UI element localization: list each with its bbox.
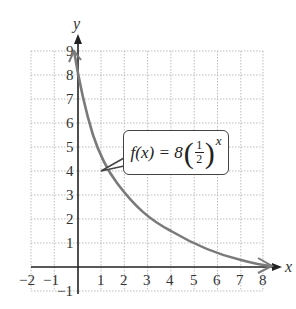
svg-text:7: 7 — [66, 91, 74, 107]
svg-text:6: 6 — [66, 115, 74, 131]
x-axis-label: x — [284, 258, 292, 275]
svg-text:3: 3 — [66, 187, 74, 203]
svg-text:2: 2 — [120, 272, 128, 288]
svg-text:2: 2 — [66, 211, 74, 227]
svg-text:5: 5 — [190, 272, 198, 288]
function-callout: f(x) = 8 ( 1 2 ) x — [123, 130, 229, 175]
y-tick-labels: −1 1 2 3 4 5 6 7 8 9 — [57, 43, 74, 299]
svg-text:8: 8 — [66, 67, 74, 83]
svg-text:1: 1 — [97, 272, 105, 288]
svg-text:6: 6 — [213, 272, 221, 288]
svg-text:−2: −2 — [19, 272, 35, 288]
exponent: x — [216, 133, 222, 149]
y-axis-arrow-icon — [74, 34, 82, 44]
fraction-denominator: 2 — [196, 153, 202, 166]
svg-text:3: 3 — [143, 272, 151, 288]
svg-text:4: 4 — [166, 272, 174, 288]
svg-text:4: 4 — [66, 163, 74, 179]
x-axis-arrow-icon — [272, 263, 282, 271]
svg-text:7: 7 — [236, 272, 244, 288]
fraction: 1 2 — [195, 139, 204, 166]
svg-text:5: 5 — [66, 139, 74, 155]
svg-text:8: 8 — [259, 272, 267, 288]
right-paren: ) — [205, 138, 215, 168]
left-paren: ( — [184, 138, 194, 168]
y-axis-label: y — [71, 15, 81, 33]
svg-text:1: 1 — [66, 235, 74, 251]
svg-text:−1: −1 — [57, 283, 73, 299]
fraction-numerator: 1 — [196, 139, 202, 152]
function-lhs: f(x) = 8 — [131, 143, 183, 163]
